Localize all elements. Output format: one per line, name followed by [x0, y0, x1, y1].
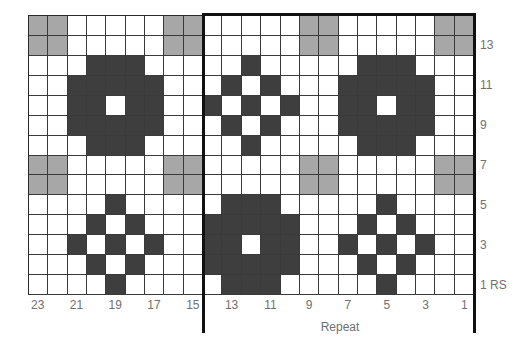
stitch-cell	[145, 275, 164, 295]
stitch-cell	[222, 275, 241, 295]
stitch-cell	[242, 116, 261, 136]
stitch-cell	[435, 116, 454, 136]
stitch-cell	[300, 235, 319, 255]
stitch-cell	[126, 116, 145, 136]
stitch-cell	[126, 156, 145, 176]
column-label: 23	[31, 298, 44, 312]
stitch-cell	[68, 156, 87, 176]
stitch-cell	[435, 36, 454, 56]
stitch-cell	[164, 175, 183, 195]
stitch-cell	[281, 16, 300, 36]
stitch-cell	[242, 36, 261, 56]
stitch-cell	[164, 76, 183, 96]
stitch-cell	[339, 255, 358, 275]
stitch-cell	[87, 76, 106, 96]
stitch-cell	[377, 275, 396, 295]
row-label: 7	[480, 158, 487, 172]
stitch-cell	[48, 96, 67, 116]
stitch-cell	[29, 76, 48, 96]
stitch-cell	[126, 136, 145, 156]
stitch-cell	[164, 156, 183, 176]
stitch-cell	[106, 116, 125, 136]
stitch-cell	[203, 36, 222, 56]
stitch-cell	[145, 116, 164, 136]
stitch-cell	[397, 16, 416, 36]
stitch-cell	[377, 175, 396, 195]
stitch-cell	[455, 76, 474, 96]
stitch-cell	[281, 56, 300, 76]
stitch-cell	[281, 136, 300, 156]
stitch-cell	[435, 215, 454, 235]
stitch-cell	[339, 76, 358, 96]
stitch-cell	[87, 215, 106, 235]
stitch-cell	[184, 215, 203, 235]
stitch-cell	[339, 56, 358, 76]
stitch-cell	[242, 156, 261, 176]
stitch-cell	[203, 195, 222, 215]
stitch-cell	[68, 235, 87, 255]
column-label: 7	[345, 298, 352, 312]
stitch-cell	[435, 16, 454, 36]
stitch-cell	[164, 116, 183, 136]
stitch-cell	[300, 195, 319, 215]
stitch-cell	[126, 275, 145, 295]
column-label: 11	[264, 298, 276, 312]
stitch-cell	[377, 56, 396, 76]
stitch-cell	[455, 136, 474, 156]
stitch-cell	[281, 116, 300, 136]
stitch-cell	[184, 195, 203, 215]
stitch-cell	[222, 76, 241, 96]
stitch-cell	[416, 175, 435, 195]
stitch-cell	[455, 56, 474, 76]
stitch-cell	[242, 16, 261, 36]
stitch-cell	[300, 76, 319, 96]
stitch-cell	[106, 195, 125, 215]
stitch-cell	[455, 175, 474, 195]
stitch-cell	[397, 56, 416, 76]
stitch-cell	[416, 136, 435, 156]
stitch-cell	[164, 36, 183, 56]
stitch-cell	[87, 195, 106, 215]
stitch-cell	[281, 36, 300, 56]
stitch-cell	[87, 255, 106, 275]
stitch-cell	[145, 215, 164, 235]
stitch-cell	[29, 195, 48, 215]
stitch-cell	[48, 156, 67, 176]
stitch-cell	[416, 36, 435, 56]
stitch-cell	[455, 36, 474, 56]
column-label: 17	[147, 298, 160, 312]
stitch-cell	[397, 116, 416, 136]
stitch-cell	[48, 76, 67, 96]
stitch-cell	[68, 255, 87, 275]
column-label: 3	[422, 298, 429, 312]
stitch-cell	[261, 255, 280, 275]
stitch-cell	[222, 116, 241, 136]
stitch-cell	[261, 56, 280, 76]
stitch-cell	[261, 215, 280, 235]
stitch-cell	[319, 136, 338, 156]
stitch-cell	[106, 136, 125, 156]
stitch-cell	[222, 96, 241, 116]
stitch-cell	[281, 275, 300, 295]
stitch-cell	[48, 36, 67, 56]
stitch-cell	[29, 175, 48, 195]
stitch-cell	[416, 255, 435, 275]
stitch-cell	[339, 36, 358, 56]
stitch-cell	[242, 235, 261, 255]
stitch-cell	[281, 76, 300, 96]
stitch-cell	[242, 96, 261, 116]
repeat-label: Repeat	[321, 320, 360, 334]
stitch-cell	[184, 56, 203, 76]
stitch-cell	[48, 56, 67, 76]
stitch-cell	[435, 136, 454, 156]
row-label: 13	[480, 38, 493, 52]
stitch-cell	[319, 16, 338, 36]
stitch-cell	[455, 96, 474, 116]
stitch-cell	[339, 116, 358, 136]
stitch-cell	[222, 235, 241, 255]
stitch-cell	[145, 96, 164, 116]
stitch-cell	[68, 16, 87, 36]
stitch-cell	[358, 136, 377, 156]
stitch-cell	[203, 215, 222, 235]
stitch-cell	[319, 96, 338, 116]
